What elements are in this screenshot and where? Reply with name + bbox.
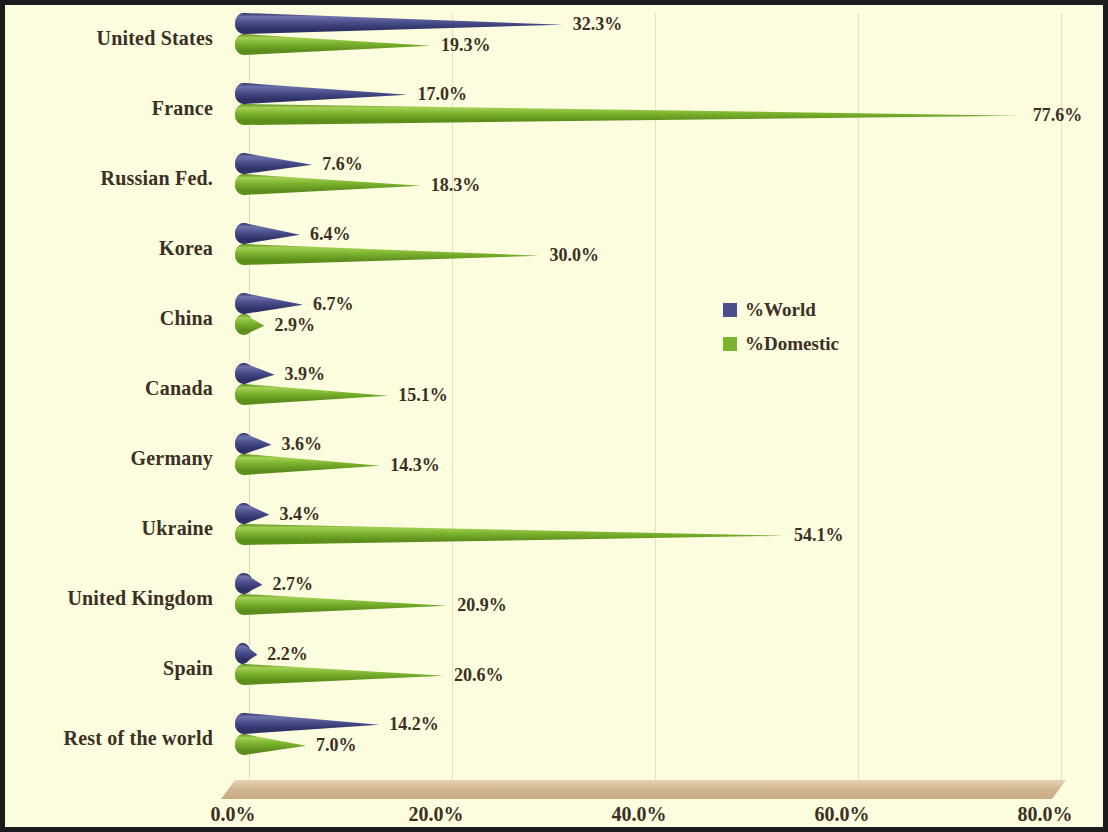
data-value-label: 20.6% <box>454 665 504 686</box>
data-value-label: 3.4% <box>280 504 321 525</box>
bar-world <box>235 153 312 174</box>
bar-domestic <box>235 734 306 755</box>
bar-world <box>235 293 303 314</box>
bar-domestic <box>235 34 431 55</box>
data-value-label: 32.3% <box>573 14 623 35</box>
data-value-label: 6.7% <box>313 294 354 315</box>
category-label: China <box>5 307 213 330</box>
category-label: United Kingdom <box>5 587 213 610</box>
category-label: Canada <box>5 377 213 400</box>
category-label: France <box>5 97 213 120</box>
data-value-label: 19.3% <box>441 35 491 56</box>
chart-row: United States32.3%19.3% <box>5 13 1103 83</box>
category-label: Ukraine <box>5 517 213 540</box>
x-tick-label: 0.0% <box>211 803 256 826</box>
category-label: Spain <box>5 657 213 680</box>
data-value-label: 17.0% <box>418 84 468 105</box>
bar-world <box>235 713 379 734</box>
bar-world <box>235 503 270 524</box>
data-value-label: 77.6% <box>1033 105 1083 126</box>
bar-domestic <box>235 384 388 405</box>
x-tick-label: 20.0% <box>409 803 464 826</box>
chart-row: Canada3.9%15.1% <box>5 363 1103 433</box>
data-value-label: 2.7% <box>272 574 313 595</box>
data-value-label: 14.2% <box>389 714 439 735</box>
legend-item: %Domestic <box>723 327 913 361</box>
legend-item: %World <box>723 293 913 327</box>
data-value-label: 20.9% <box>457 595 507 616</box>
chart-legend: %World%Domestic <box>723 293 913 361</box>
bar-domestic <box>235 594 447 615</box>
legend-label: %Domestic <box>745 333 839 355</box>
bar-domestic <box>235 244 540 265</box>
chart-row: Korea6.4%30.0% <box>5 223 1103 293</box>
bar-domestic <box>235 314 264 335</box>
chart-row: Ukraine3.4%54.1% <box>5 503 1103 573</box>
data-value-label: 15.1% <box>398 385 448 406</box>
x-tick-label: 60.0% <box>815 803 870 826</box>
chart-row: Russian Fed.7.6%18.3% <box>5 153 1103 223</box>
bar-world <box>235 83 408 104</box>
category-label: Russian Fed. <box>5 167 213 190</box>
category-label: United States <box>5 27 213 50</box>
chart-row: France17.0%77.6% <box>5 83 1103 153</box>
chart-row: Rest of the world14.2%7.0% <box>5 713 1103 783</box>
bar-world <box>235 223 300 244</box>
category-label: Korea <box>5 237 213 260</box>
chart-row: Spain2.2%20.6% <box>5 643 1103 713</box>
category-label: Rest of the world <box>5 727 213 750</box>
legend-label: %World <box>745 299 816 321</box>
bar-world <box>235 573 262 594</box>
data-value-label: 54.1% <box>794 525 844 546</box>
bar-world <box>235 13 563 34</box>
x-tick-label: 40.0% <box>612 803 667 826</box>
bar-domestic <box>235 454 380 475</box>
bar-world <box>235 363 275 384</box>
data-value-label: 3.9% <box>285 364 326 385</box>
data-value-label: 2.9% <box>274 315 315 336</box>
chart-row: Germany3.6%14.3% <box>5 433 1103 503</box>
bar-domestic <box>235 174 421 195</box>
x-tick-label: 80.0% <box>1018 803 1073 826</box>
chart-row: United Kingdom2.7%20.9% <box>5 573 1103 643</box>
legend-swatch-icon <box>723 303 737 317</box>
bar-domestic <box>235 104 1023 125</box>
bar-domestic <box>235 524 784 545</box>
data-value-label: 14.3% <box>390 455 440 476</box>
data-value-label: 7.6% <box>322 154 363 175</box>
data-value-label: 18.3% <box>431 175 481 196</box>
bar-domestic <box>235 664 444 685</box>
bar-world <box>235 643 257 664</box>
data-value-label: 7.0% <box>316 735 357 756</box>
chart-row: China6.7%2.9% <box>5 293 1103 363</box>
category-label: Germany <box>5 447 213 470</box>
data-value-label: 30.0% <box>550 245 600 266</box>
bar-world <box>235 433 272 454</box>
legend-swatch-icon <box>723 337 737 351</box>
chart-container: United States32.3%19.3%France17.0%77.6%R… <box>0 0 1108 832</box>
data-value-label: 3.6% <box>282 434 323 455</box>
data-value-label: 2.2% <box>267 644 308 665</box>
data-value-label: 6.4% <box>310 224 351 245</box>
